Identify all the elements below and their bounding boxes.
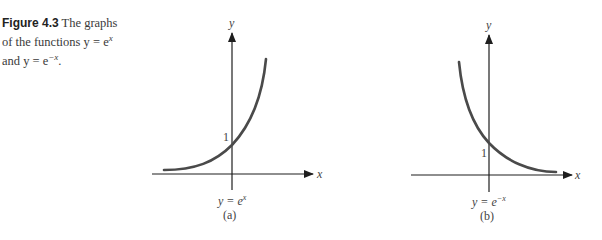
function-label-b: y = e−x bbox=[471, 194, 506, 209]
figure-graphs: y x 1 y = ex (a) y x 1 y = e−x (b) bbox=[0, 0, 602, 240]
y-axis-label-b: y bbox=[485, 18, 492, 32]
graph-b: y x 1 y = e−x (b) bbox=[411, 18, 581, 223]
function-prefix-a: y = e bbox=[217, 194, 243, 208]
x-axis-label-b: x bbox=[574, 168, 581, 182]
function-label-a: y = ex bbox=[217, 193, 247, 208]
graph-a: y x 1 y = ex (a) bbox=[152, 16, 323, 222]
x-axis-label-a: x bbox=[316, 167, 323, 181]
curve-exp-a bbox=[164, 59, 266, 170]
function-exp-b: −x bbox=[497, 194, 506, 203]
function-prefix-b: y = e bbox=[471, 195, 497, 209]
function-exp-a: x bbox=[242, 193, 247, 202]
curve-exp-neg-b bbox=[459, 62, 556, 172]
panel-label-a: (a) bbox=[223, 208, 236, 222]
y-axis-label-a: y bbox=[228, 16, 235, 30]
panel-label-b: (b) bbox=[480, 209, 494, 223]
tick-label-one-a: 1 bbox=[223, 130, 229, 144]
tick-label-one-b: 1 bbox=[481, 146, 487, 160]
